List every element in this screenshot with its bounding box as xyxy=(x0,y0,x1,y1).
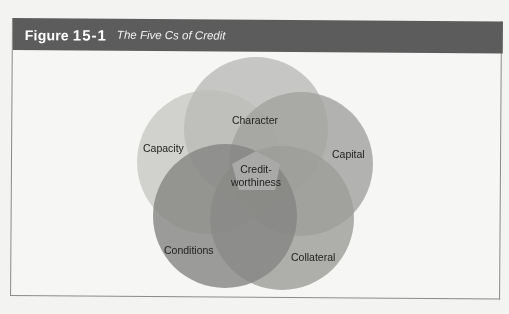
label-character: Character xyxy=(232,114,279,126)
label-capacity: Capacity xyxy=(143,142,185,154)
label-worthiness: worthiness xyxy=(230,176,281,188)
venn-diagram: Character Capacity Capital Conditions Co… xyxy=(0,0,509,314)
label-capital: Capital xyxy=(332,148,365,160)
label-conditions: Conditions xyxy=(164,244,214,256)
label-collateral: Collateral xyxy=(291,251,335,263)
label-credit: Credit- xyxy=(240,163,272,175)
